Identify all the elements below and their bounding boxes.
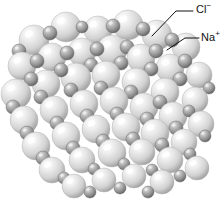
label-sodium-charge: + (215, 29, 220, 38)
sodium-ion-sphere (142, 186, 154, 198)
sodium-ion-sphere (199, 130, 211, 142)
sodium-ion-sphere (84, 186, 96, 198)
sodium-ion-sphere (60, 46, 74, 60)
sodium-ion-sphere (136, 22, 150, 36)
chloride-ion-sphere (157, 147, 183, 173)
crystal-lattice-illustration (0, 0, 224, 199)
sodium-ion-sphere (43, 26, 57, 40)
nacl-crystal-figure: Cl− Na+ (0, 0, 224, 199)
sodium-ion-sphere (76, 21, 88, 33)
sodium-ion-sphere (30, 54, 44, 68)
chloride-ion-sphere (122, 164, 146, 188)
sodium-ion-sphere (106, 19, 120, 33)
label-chloride-charge: − (207, 1, 212, 10)
label-chloride-symbol: Cl (196, 3, 207, 15)
ion-sphere-layer (1, 10, 215, 198)
label-sodium-symbol: Na (201, 31, 215, 43)
sodium-ion-sphere (165, 33, 179, 47)
sodium-ion-sphere (90, 42, 104, 56)
chloride-ion-sphere (92, 168, 116, 192)
sodium-ion-sphere (114, 182, 126, 194)
sodium-ion-sphere (149, 44, 163, 58)
chloride-ion-sphere (62, 174, 86, 198)
chloride-ion-sphere (129, 139, 155, 165)
label-chloride: Cl− (196, 4, 211, 15)
chloride-ion-sphere (185, 156, 209, 180)
sodium-ion-sphere (174, 170, 186, 182)
label-sodium: Na+ (201, 32, 220, 43)
